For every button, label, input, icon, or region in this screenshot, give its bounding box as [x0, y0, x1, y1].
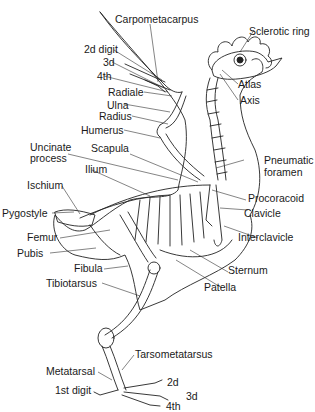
label-humerus: Humerus: [81, 125, 124, 136]
label-ilium: Ilium: [85, 164, 107, 175]
label-foot-4th: 4th: [166, 401, 181, 412]
pubis: [90, 225, 120, 255]
label-sternum: Sternum: [228, 265, 268, 276]
label-interclavicle: Interclavicle: [238, 232, 293, 243]
procoracoid-clavicle: [206, 185, 222, 246]
head: [212, 51, 282, 79]
label-pygostyle: Pygostyle: [2, 208, 48, 219]
label-foot-1st-digit: 1st digit: [55, 385, 91, 396]
label-foot-3d: 3d: [186, 391, 198, 402]
label-wing-3d: 3d: [103, 57, 115, 68]
label-metatarsal: Metatarsal: [46, 366, 95, 377]
tarsometatarsus: [102, 346, 126, 390]
label-pneumatic-foramen-line1: Pneumatic: [264, 155, 314, 166]
eye-pupil: [237, 57, 243, 63]
label-radiale: Radiale: [108, 87, 144, 98]
label-femur: Femur: [27, 232, 57, 243]
label-carpometacarpus: Carpometacarpus: [115, 14, 198, 25]
label-tibiotarsus: Tibiotarsus: [46, 278, 97, 289]
label-foot-2d: 2d: [167, 377, 179, 388]
label-pneumatic-foramen-line2: foramen: [264, 167, 303, 178]
label-wing-2d-digit: 2d digit: [84, 44, 118, 55]
ribs: [135, 192, 204, 246]
label-uncinate-process-line2: process: [30, 153, 67, 164]
label-scapula: Scapula: [91, 143, 129, 154]
label-pubis: Pubis: [17, 248, 43, 259]
label-clavicle: Clavicle: [244, 208, 281, 219]
wing-ulna-radius: [157, 92, 186, 137]
tibiotarsus: [105, 270, 158, 338]
label-ischium: Ischium: [27, 180, 63, 191]
humerus: [160, 134, 204, 180]
label-axis: Axis: [240, 95, 260, 106]
label-tarsometatarsus: Tarsometatarsus: [135, 349, 213, 360]
neck-vertebrae: [206, 78, 226, 180]
label-radius: Radius: [99, 111, 132, 122]
label-procoracoid: Procoracoid: [248, 193, 304, 204]
toes: [94, 380, 168, 406]
label-patella: Patella: [204, 282, 236, 293]
label-wing-4th: 4th: [97, 71, 112, 82]
label-sclerotic-ring: Sclerotic ring: [249, 26, 310, 37]
label-atlas: Atlas: [238, 79, 261, 90]
comb: [208, 37, 271, 70]
label-fibula: Fibula: [74, 263, 103, 274]
